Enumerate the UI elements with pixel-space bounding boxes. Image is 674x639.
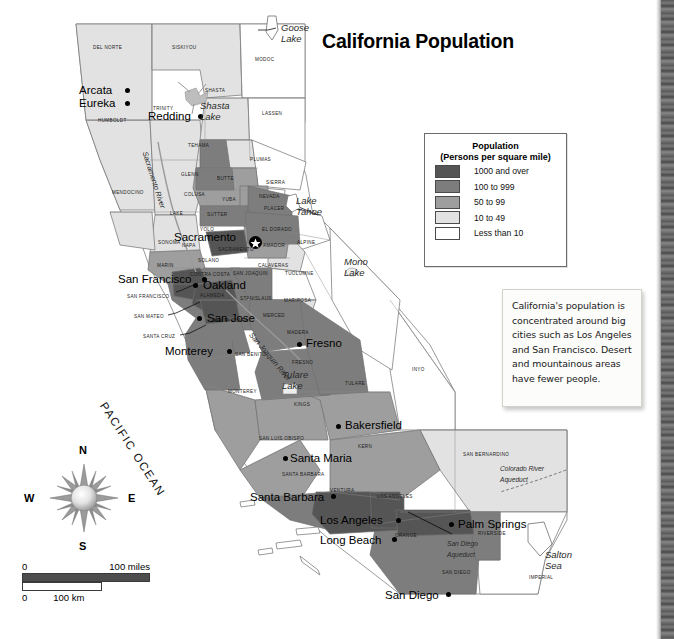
county-label: SAN LUIS OBISPO — [259, 436, 304, 441]
county-label: MARIN — [157, 263, 174, 268]
legend-heading-primary: Population — [425, 141, 566, 151]
county-label: MERCED — [263, 313, 285, 318]
compass-rose: N E S W — [22, 448, 146, 558]
legend-swatch — [435, 165, 460, 178]
scale-miles-label: 100 miles — [109, 561, 150, 572]
county-label: SISKIYOU — [172, 45, 197, 50]
county-label: HUMBOLDT — [98, 118, 127, 123]
city-label: Los Angeles — [320, 514, 383, 526]
county-label: SIERRA — [266, 180, 285, 185]
county-label: PLACER — [264, 206, 284, 211]
city-label: Santa Barbara — [250, 491, 324, 503]
scale-bar-miles — [22, 573, 150, 582]
scale-bar: 0 100 miles 0 100 km — [22, 561, 172, 603]
county-label: MARIPOSA — [284, 298, 311, 303]
county-label: LOS ANGELES — [377, 494, 413, 499]
map-page: California Population DEL NORTESISKIYOUM… — [0, 0, 674, 639]
compass-east-label: E — [128, 492, 135, 504]
compass-north-label: N — [79, 444, 87, 456]
county-label: ORANGE — [395, 533, 417, 538]
county-label: KINGS — [294, 402, 310, 407]
legend-row: 1000 and over — [435, 165, 566, 178]
city-label: Oakland — [203, 279, 246, 291]
city-marker — [336, 424, 341, 429]
county-label: DEL NORTE — [93, 45, 122, 50]
county-label: RIVERSIDE — [478, 531, 506, 536]
county-label: MENDOCINO — [112, 190, 144, 195]
county-label: SUTTER — [207, 212, 227, 217]
state-capital-marker — [249, 236, 262, 249]
callout-note-text: California's population is concentrated … — [512, 299, 633, 387]
legend-label: 50 to 99 — [474, 197, 505, 207]
city-marker — [297, 342, 302, 347]
city-marker — [392, 537, 397, 542]
county-label: VENTURA — [330, 488, 354, 493]
legend-heading-secondary: (Persons per square mile) — [425, 152, 566, 162]
legend-label: 100 to 999 — [474, 182, 515, 192]
compass-west-label: W — [24, 492, 34, 504]
county-label: IMPERIAL — [529, 575, 553, 580]
county-label: SAN FRANCISCO — [127, 294, 169, 299]
legend-row: 10 to 49 — [435, 211, 566, 224]
county-label: KERN — [358, 444, 372, 449]
county-label: SAN BERNARDINO — [463, 452, 509, 457]
county-label: TULARE — [345, 381, 365, 386]
county-label: NEVADA — [259, 194, 280, 199]
legend-rows: 1000 and over100 to 99950 to 9910 to 49L… — [425, 165, 566, 240]
county-label: SAN MATEO — [134, 314, 164, 319]
county-label: CONTRA COSTA — [190, 272, 230, 277]
city-label: Redding — [148, 110, 191, 122]
county-label: ALPINE — [297, 240, 315, 245]
city-label: San Francisco — [118, 273, 192, 285]
water-feature-label: San Diego Aqueduct — [447, 538, 478, 560]
city-marker — [193, 283, 198, 288]
county-label: YUBA — [222, 197, 236, 202]
county-label: INYO — [412, 367, 425, 372]
county-label: TUOLUMNE — [285, 271, 314, 276]
county-label: TEHAMA — [188, 143, 209, 148]
county-label: SHASTA — [205, 88, 225, 93]
water-feature-label: Mono Lake — [344, 256, 368, 278]
scale-km-label: 100 km — [53, 592, 84, 603]
city-marker — [125, 88, 130, 93]
city-label: Palm Springs — [458, 518, 526, 530]
city-label: Long Beach — [320, 534, 381, 546]
scale-miles-zero: 0 — [22, 561, 27, 572]
city-label: San Jose — [207, 312, 255, 324]
callout-note: California's population is concentrated … — [502, 289, 642, 407]
legend-swatch — [435, 180, 460, 193]
county-label: SANTA BARBARA — [282, 472, 325, 477]
water-feature-label: Salton Sea — [545, 549, 572, 571]
county-label: ALAMEDA — [200, 293, 224, 298]
county-label: SOLANO — [198, 258, 219, 263]
county-label: BUTTE — [217, 176, 234, 181]
scale-bar-km — [22, 582, 102, 591]
county-label: GLENN — [181, 172, 199, 177]
map-legend: Population (Persons per square mile) 100… — [424, 133, 567, 267]
legend-label: Less than 10 — [474, 228, 523, 238]
city-label: Arcata — [79, 84, 112, 96]
county-label: CALAVERAS — [258, 263, 288, 268]
legend-label: 10 to 49 — [474, 213, 505, 223]
city-marker — [449, 522, 454, 527]
water-feature-label: Shasta Lake — [200, 100, 230, 122]
county-label: MODOC — [255, 57, 274, 62]
city-marker — [396, 518, 401, 523]
city-label: Fresno — [306, 337, 342, 349]
city-label: Bakersfield — [345, 419, 402, 431]
county-label: LASSEN — [262, 111, 282, 116]
compass-south-label: S — [79, 540, 86, 552]
county-label: AMADOR — [263, 243, 285, 248]
legend-label: 1000 and over — [474, 166, 529, 176]
scale-km-zero: 0 — [22, 592, 27, 603]
city-label: Monterey — [165, 345, 213, 357]
legend-swatch — [435, 211, 460, 224]
county-label: SAN JOAQUIN — [233, 271, 268, 276]
county-label: STANISLAUS — [240, 296, 272, 301]
county-label: MADERA — [287, 330, 309, 335]
legend-row: Less than 10 — [435, 227, 566, 240]
water-feature-label: Colorado River Aqueduct — [500, 463, 544, 485]
water-feature-label: Goose Lake — [281, 22, 309, 44]
city-label: Eureka — [79, 97, 115, 109]
scanned-page-edge — [661, 0, 674, 639]
